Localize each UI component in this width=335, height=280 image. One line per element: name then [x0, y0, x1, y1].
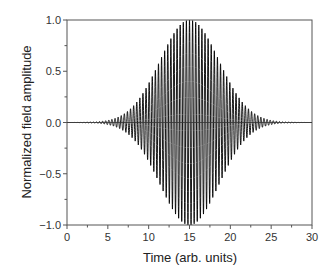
y-axis-ticks: −1.0−0.50.00.51.0 [39, 14, 67, 231]
y-tick-label: 0.0 [46, 117, 61, 129]
x-axis-label: Time (arb. units) [143, 250, 237, 265]
x-axis-ticks: 051015202530 [64, 225, 318, 243]
chart: 051015202530 −1.0−0.50.00.51.0 Time (arb… [0, 0, 335, 280]
x-tick-label: 30 [306, 231, 318, 243]
x-tick-label: 10 [143, 231, 155, 243]
y-tick-label: 0.5 [46, 65, 61, 77]
y-tick-label: 1.0 [46, 14, 61, 26]
x-tick-label: 25 [265, 231, 277, 243]
y-tick-label: −1.0 [39, 219, 61, 231]
x-tick-label: 20 [224, 231, 236, 243]
y-tick-label: −0.5 [39, 168, 61, 180]
y-axis-label: Normalized field amplitude [19, 45, 34, 198]
x-tick-label: 0 [64, 231, 70, 243]
x-tick-label: 5 [105, 231, 111, 243]
x-tick-label: 15 [183, 231, 195, 243]
